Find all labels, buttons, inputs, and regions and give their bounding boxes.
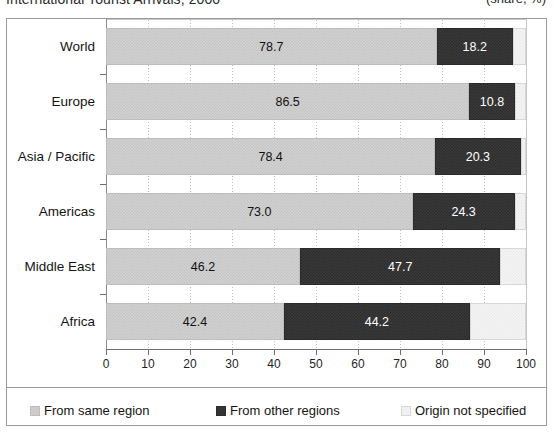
axis-tick-label: 90 (464, 357, 504, 371)
stacked-bar[interactable]: 86.510.8 (7, 83, 548, 120)
axis-tick (190, 350, 191, 355)
chart-units-note: (share, %) (486, 0, 546, 6)
axis-tick-label: 80 (422, 357, 462, 371)
legend-label: From same region (44, 403, 149, 418)
chart-frame: 0102030405060708090100 World78.718.2Euro… (6, 18, 547, 426)
bar-segment[interactable] (515, 193, 526, 230)
legend-swatch (216, 406, 226, 416)
axis-tick-label: 60 (338, 357, 378, 371)
bar-segment[interactable] (513, 28, 526, 65)
bar-value-label: 46.2 (107, 260, 299, 274)
axis-tick (106, 350, 107, 355)
legend-item[interactable]: From same region (30, 401, 149, 415)
stacked-bar[interactable]: 73.024.3 (7, 193, 548, 230)
bar-segment[interactable] (521, 138, 526, 175)
axis-tick-label: 40 (254, 357, 294, 371)
bar-segment[interactable]: 18.2 (437, 28, 513, 65)
bar-segment[interactable]: 78.4 (106, 138, 435, 175)
bar-row: Middle East46.247.7 (7, 239, 548, 294)
bar-segment[interactable]: 46.2 (106, 248, 300, 285)
bar-value-label: 78.4 (107, 150, 434, 164)
axis-tick (526, 350, 527, 355)
bar-segment[interactable]: 73.0 (106, 193, 413, 230)
stacked-bar[interactable]: 46.247.7 (7, 248, 548, 285)
bar-segment[interactable]: 20.3 (435, 138, 520, 175)
bar-value-label: 73.0 (107, 205, 412, 219)
bar-segment[interactable]: 47.7 (300, 248, 500, 285)
bar-row: Africa42.444.2 (7, 294, 548, 349)
axis-tick-label: 50 (296, 357, 336, 371)
axis-tick (442, 350, 443, 355)
bar-value-label: 44.2 (285, 315, 469, 329)
axis-tick (274, 350, 275, 355)
bar-value-label: 10.8 (470, 95, 513, 109)
legend-swatch (401, 406, 411, 416)
bar-segment[interactable]: 24.3 (413, 193, 515, 230)
bar-value-label: 47.7 (301, 260, 499, 274)
bar-row: Europe86.510.8 (7, 74, 548, 129)
axis-tick-label: 20 (170, 357, 210, 371)
axis-tick (484, 350, 485, 355)
stacked-bar[interactable]: 78.420.3 (7, 138, 548, 175)
stacked-bar[interactable]: 42.444.2 (7, 303, 548, 340)
axis-tick-label: 100 (506, 357, 546, 371)
bar-segment[interactable] (515, 83, 526, 120)
bar-segment[interactable] (500, 248, 526, 285)
bar-segment[interactable]: 78.7 (106, 28, 437, 65)
axis-tick (232, 350, 233, 355)
chart-title: International Tourist Arrivals, 2000 (6, 0, 220, 7)
legend-label: From other regions (230, 403, 340, 418)
bar-row: World78.718.2 (7, 19, 548, 74)
bar-value-label: 18.2 (438, 40, 512, 54)
axis-tick-label: 0 (86, 357, 126, 371)
bar-row: Americas73.024.3 (7, 184, 548, 239)
chart-header: International Tourist Arrivals, 2000 (sh… (0, 0, 554, 11)
legend-item[interactable]: From other regions (216, 401, 340, 415)
bar-value-label: 20.3 (436, 150, 519, 164)
legend-swatch (30, 406, 40, 416)
axis-tick-label: 10 (128, 357, 168, 371)
bar-segment[interactable] (470, 303, 526, 340)
chart-legend: From same regionFrom other regionsOrigin… (6, 387, 547, 426)
legend-label: Origin not specified (415, 403, 526, 418)
axis-tick-label: 30 (212, 357, 252, 371)
axis-tick-label: 70 (380, 357, 420, 371)
bar-value-label: 86.5 (107, 95, 468, 109)
legend-item[interactable]: Origin not specified (401, 401, 526, 415)
stacked-bar[interactable]: 78.718.2 (7, 28, 548, 65)
bar-segment[interactable]: 42.4 (106, 303, 284, 340)
axis-tick (148, 350, 149, 355)
bar-value-label: 78.7 (107, 40, 436, 54)
bar-value-label: 42.4 (107, 315, 283, 329)
bar-segment[interactable]: 44.2 (284, 303, 470, 340)
bar-value-label: 24.3 (414, 205, 514, 219)
bar-segment[interactable]: 86.5 (106, 83, 469, 120)
axis-tick (400, 350, 401, 355)
axis-tick (316, 350, 317, 355)
bar-segment[interactable]: 10.8 (469, 83, 514, 120)
bar-row: Asia / Pacific78.420.3 (7, 129, 548, 184)
axis-tick (358, 350, 359, 355)
